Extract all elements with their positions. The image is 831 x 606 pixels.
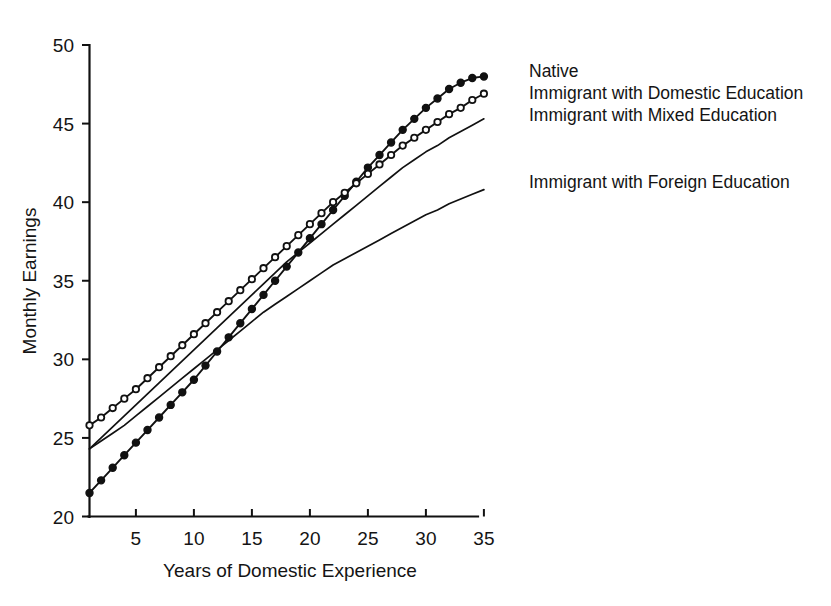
x-tick-label: 25 — [357, 528, 378, 549]
data-point-open — [214, 309, 220, 315]
data-point-open — [121, 395, 127, 401]
data-point-filled — [446, 86, 453, 93]
data-point-filled — [457, 79, 464, 86]
chart-svg: 20253035404550 Monthly Earnings 51015202… — [0, 0, 831, 606]
data-point-open — [376, 161, 382, 167]
data-point-filled — [272, 277, 279, 284]
data-point-filled — [480, 73, 487, 80]
data-point-open — [168, 353, 174, 359]
data-point-open — [226, 298, 232, 304]
data-point-open — [342, 190, 348, 196]
x-tick-group — [136, 509, 484, 517]
data-point-open — [237, 287, 243, 293]
data-point-open — [411, 135, 417, 141]
data-point-filled — [109, 464, 116, 471]
series-immigrant-with-domestic-education — [86, 91, 487, 429]
legend: Native Immigrant with Domestic Education… — [529, 61, 803, 192]
legend-label-foreign: Immigrant with Foreign Education — [529, 172, 790, 192]
data-point-filled — [190, 376, 197, 383]
legend-label-mixed: Immigrant with Mixed Education — [529, 105, 777, 125]
y-tick-label-group: 20253035404550 — [53, 35, 74, 528]
data-point-open — [469, 97, 475, 103]
y-tick-label: 25 — [53, 428, 74, 449]
x-tick-label: 10 — [183, 528, 204, 549]
data-point-open — [260, 265, 266, 271]
data-point-open — [481, 91, 487, 97]
x-tick-label-group: 5101520253035 — [131, 528, 495, 549]
data-point-open — [423, 127, 429, 133]
data-point-filled — [376, 152, 383, 159]
data-point-open — [330, 199, 336, 205]
data-point-open — [400, 142, 406, 148]
y-tick-label: 35 — [53, 271, 74, 292]
data-point-filled — [144, 427, 151, 434]
data-point-open — [458, 105, 464, 111]
series-line — [90, 190, 484, 449]
data-point-open — [365, 171, 371, 177]
data-point-open — [446, 111, 452, 117]
data-point-filled — [121, 452, 128, 459]
series-line — [90, 119, 484, 449]
y-tick-label: 45 — [53, 114, 74, 135]
data-point-filled — [469, 75, 476, 82]
data-point-filled — [260, 291, 267, 298]
data-point-open — [284, 243, 290, 249]
data-point-filled — [248, 306, 255, 313]
data-point-open — [307, 221, 313, 227]
data-point-filled — [330, 207, 337, 214]
x-tick-label: 30 — [415, 528, 436, 549]
y-axis: 20253035404550 Monthly Earnings — [19, 35, 90, 528]
y-tick-label: 30 — [53, 349, 74, 370]
data-point-open — [353, 180, 359, 186]
legend-label-domestic: Immigrant with Domestic Education — [529, 83, 803, 103]
x-tick-label: 15 — [241, 528, 262, 549]
data-point-open — [388, 152, 394, 158]
legend-label-native: Native — [529, 61, 579, 81]
data-point-open — [110, 405, 116, 411]
data-point-filled — [388, 139, 395, 146]
data-point-open — [86, 422, 92, 428]
x-axis-title: Years of Domestic Experience — [163, 560, 417, 581]
y-tick-group — [82, 45, 90, 517]
series-native — [86, 73, 487, 497]
data-point-open — [179, 342, 185, 348]
x-tick-label: 5 — [131, 528, 142, 549]
series-immigrant-with-foreign-education — [90, 190, 484, 449]
y-axis-title: Monthly Earnings — [19, 208, 40, 355]
data-point-filled — [434, 95, 441, 102]
data-point-filled — [179, 389, 186, 396]
plot-area — [86, 73, 487, 497]
y-tick-label: 20 — [53, 507, 74, 528]
data-point-open — [434, 119, 440, 125]
data-point-open — [272, 254, 278, 260]
data-point-filled — [237, 320, 244, 327]
data-point-open — [202, 320, 208, 326]
data-point-filled — [318, 221, 325, 228]
data-point-open — [191, 331, 197, 337]
series-immigrant-with-mixed-education — [90, 119, 484, 449]
data-point-filled — [399, 126, 406, 133]
data-point-filled — [167, 401, 174, 408]
data-point-filled — [422, 104, 429, 111]
data-point-open — [156, 364, 162, 370]
x-tick-label: 20 — [299, 528, 320, 549]
y-tick-label: 40 — [53, 192, 74, 213]
data-point-open — [249, 276, 255, 282]
data-point-filled — [86, 489, 93, 496]
data-point-open — [98, 414, 104, 420]
chart-figure: 20253035404550 Monthly Earnings 51015202… — [0, 0, 831, 606]
x-axis: 5101520253035 Years of Domestic Experien… — [89, 509, 495, 581]
y-tick-label: 50 — [53, 35, 74, 56]
x-tick-label: 35 — [473, 528, 494, 549]
data-point-open — [144, 375, 150, 381]
data-point-open — [133, 386, 139, 392]
data-point-filled — [132, 439, 139, 446]
data-point-open — [318, 210, 324, 216]
data-point-filled — [98, 477, 105, 484]
data-point-filled — [156, 414, 163, 421]
data-point-open — [295, 232, 301, 238]
data-point-filled — [202, 362, 209, 369]
data-point-filled — [411, 115, 418, 122]
